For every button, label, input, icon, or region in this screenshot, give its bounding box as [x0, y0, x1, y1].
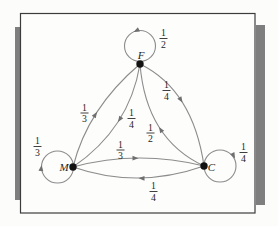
fraction-denominator: 4 [241, 153, 246, 164]
fraction-numerator: 1 [118, 139, 123, 150]
state-node-F [136, 60, 143, 67]
fraction-numerator: 1 [148, 122, 153, 133]
right-gray-bar [256, 25, 265, 205]
fraction-denominator: 4 [129, 119, 134, 130]
fraction-numerator: 1 [35, 135, 40, 146]
fraction-denominator: 4 [164, 91, 169, 102]
fraction-numerator: 1 [164, 79, 169, 90]
fraction-numerator: 1 [151, 180, 156, 191]
fraction-numerator: 1 [129, 107, 134, 118]
fraction-denominator: 2 [148, 133, 153, 144]
state-label-M: M [58, 161, 69, 173]
state-label-C: C [208, 161, 216, 173]
fraction-denominator: 2 [161, 39, 166, 50]
fraction-denominator: 3 [35, 147, 40, 158]
state-node-C [200, 162, 207, 169]
state-label-F: F [137, 49, 145, 61]
fraction-numerator: 1 [161, 27, 166, 38]
fraction-denominator: 3 [82, 113, 87, 124]
fraction-numerator: 1 [82, 102, 87, 113]
state-diagram: F M C 1 2 1 3 1 4 1 3 1 [0, 0, 278, 226]
fraction-denominator: 3 [118, 150, 123, 161]
fraction-numerator: 1 [241, 141, 246, 152]
fraction-denominator: 4 [151, 192, 156, 203]
state-node-M [69, 163, 76, 170]
figure-canvas: F M C 1 2 1 3 1 4 1 3 1 [0, 0, 278, 226]
